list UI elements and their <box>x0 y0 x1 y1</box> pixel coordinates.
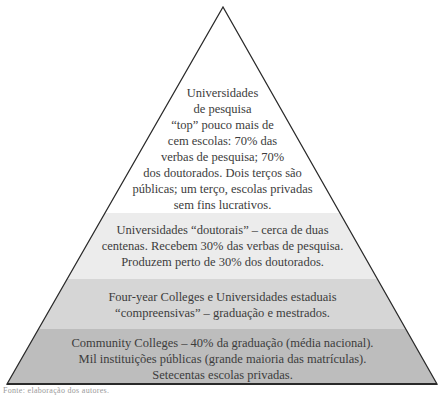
tier-1-line: públicas; um terço, escolas privadas <box>0 181 445 197</box>
tier-3-line: “compreensivas” – graduação e mestrados. <box>0 305 445 321</box>
tier-4-line: Mil instituições públicas (grande maiori… <box>0 351 445 367</box>
tier-4-line: Community Colleges – 40% da graduação (m… <box>0 335 445 351</box>
tier-1-line: verbas de pesquisa; 70% <box>0 149 445 165</box>
tier-1-line: sem fins lucrativos. <box>0 197 445 213</box>
tier-4-line: Setecentas escolas privadas. <box>0 367 445 383</box>
source-note: Fonte: elaboração dos autores. <box>3 386 109 395</box>
tier-1-line: “top” pouco mais de <box>0 117 445 133</box>
tier-1-line: Universidades <box>0 85 445 101</box>
tier-2-line: centenas. Recebem 30% das verbas de pesq… <box>0 238 445 254</box>
tier-1-text: Universidades de pesquisa “top” pouco ma… <box>0 85 445 213</box>
tier-2-line: Universidades “doutorais” – cerca de dua… <box>0 222 445 238</box>
tier-3-text: Four-year Colleges e Universidades estad… <box>0 289 445 321</box>
tier-4-text: Community Colleges – 40% da graduação (m… <box>0 335 445 383</box>
tier-1-line: de pesquisa <box>0 101 445 117</box>
tier-3-line: Four-year Colleges e Universidades estad… <box>0 289 445 305</box>
tier-2-line: Produzem perto de 30% dos doutorados. <box>0 254 445 270</box>
tier-1-line: cem escolas: 70% das <box>0 133 445 149</box>
tier-2-text: Universidades “doutorais” – cerca de dua… <box>0 222 445 270</box>
tier-1-line: dos doutorados. Dois terços são <box>0 165 445 181</box>
